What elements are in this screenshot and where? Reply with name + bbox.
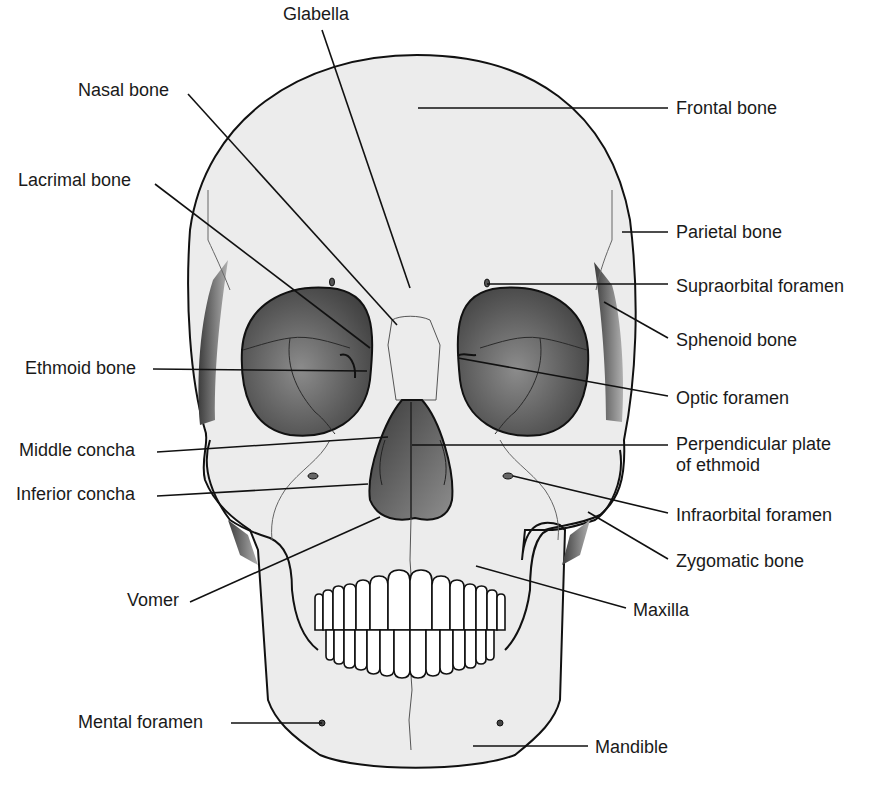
label-supraorbital-foramen: Supraorbital foramen: [676, 276, 844, 297]
label-infraorbital-foramen: Infraorbital foramen: [676, 505, 832, 526]
right-mental-foramen: [497, 720, 503, 726]
label-mental-foramen: Mental foramen: [78, 712, 203, 733]
nasal-bones: [388, 316, 440, 400]
label-vomer: Vomer: [127, 590, 179, 611]
label-parietal-bone: Parietal bone: [676, 222, 782, 243]
label-optic-foramen: Optic foramen: [676, 388, 789, 409]
left-infraorbital-foramen: [308, 473, 318, 479]
label-middle-concha: Middle concha: [19, 440, 135, 461]
label-ethmoid-bone: Ethmoid bone: [25, 358, 136, 379]
right-infraorbital-foramen: [503, 473, 513, 479]
label-glabella: Glabella: [283, 4, 349, 25]
label-frontal-bone: Frontal bone: [676, 98, 777, 119]
label-lacrimal-bone: Lacrimal bone: [18, 170, 131, 191]
right-supraorbital-foramen: [485, 279, 490, 287]
leader-line-zygomatic-bone: [588, 512, 668, 559]
label-mandible: Mandible: [595, 737, 668, 758]
right-ramus-shadow: [562, 520, 590, 565]
label-perpendicular-plate: Perpendicular plate of ethmoid: [676, 434, 831, 476]
label-zygomatic-bone: Zygomatic bone: [676, 551, 804, 572]
label-sphenoid-bone: Sphenoid bone: [676, 330, 797, 351]
left-supraorbital-foramen: [330, 278, 335, 286]
label-inferior-concha: Inferior concha: [16, 484, 135, 505]
skull-diagram: Glabella Nasal bone Frontal bone Lacrima…: [0, 0, 869, 790]
label-nasal-bone: Nasal bone: [78, 80, 169, 101]
label-maxilla: Maxilla: [633, 600, 689, 621]
